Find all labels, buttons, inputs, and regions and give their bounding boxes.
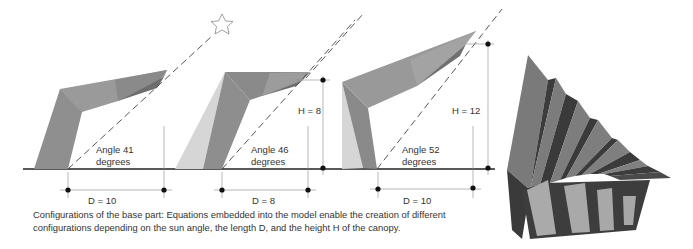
dimension-d-label: D = 10 [403,195,431,206]
dimension-h-label: H = 8 [298,105,321,116]
dimension-d-label: D = 10 [88,195,116,206]
configuration-1: Angle 41 degrees D = 10 [34,36,212,206]
configuration-2: Angle 46 degrees H = 8 D = 8 [175,20,355,206]
angle-unit-label: degrees [96,156,131,167]
angle-label: Angle 46 [251,144,289,155]
sun-star-icon [211,14,233,34]
angle-label: Angle 41 [96,144,134,155]
figure-caption: Configurations of the base part: Equatio… [33,209,513,234]
sun-ray-dashed-line-upper [306,14,363,78]
configuration-3: Angle 52 degrees H = 12 D = 10 [306,9,502,206]
dimension-h-label: H = 12 [452,105,480,116]
dimension-h [296,76,330,175]
caption-line-2: configurations depending on the sun angl… [33,222,513,235]
angle-unit-label: degrees [402,156,437,167]
folded-canopy-render [507,55,671,239]
angle-label: Angle 52 [402,144,440,155]
angle-unit-label: degrees [251,156,286,167]
dimension-d-label: D = 8 [252,195,275,206]
caption-line-1: Configurations of the base part: Equatio… [33,209,513,222]
canopy-shape [175,72,310,169]
